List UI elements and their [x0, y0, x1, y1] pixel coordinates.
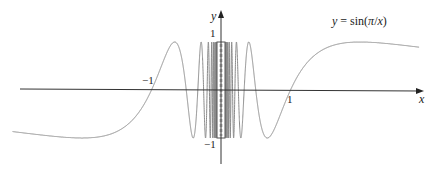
equation-label: y = sin(π/x)	[331, 14, 387, 28]
x-axis-label: x	[418, 92, 425, 106]
y-axis-label: y	[210, 9, 217, 23]
eq-prefix: = sin(	[337, 14, 368, 28]
x-tick-1: 1	[287, 93, 293, 105]
y-tick-neg1: −1	[204, 138, 216, 150]
y-tick-1: 1	[210, 27, 216, 39]
x-tick-neg1: −1	[142, 74, 154, 86]
y-axis-arrow-icon	[218, 10, 224, 18]
eq-suffix: )	[383, 14, 387, 28]
function-plot: x y −1 1 1 −1 y = sin(π/x)	[0, 0, 440, 169]
